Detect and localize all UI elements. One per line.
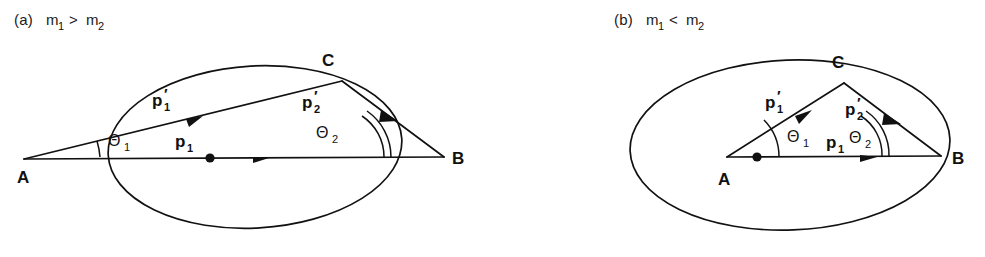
- vertex-label-a-C: C: [322, 51, 334, 70]
- center-of-mass-dot-a: [205, 153, 214, 162]
- panel-a-caption-mass-right-sub: 2: [98, 20, 104, 32]
- label-theta2-a: Θ 2: [316, 124, 338, 145]
- vertex-label-b-A: A: [718, 170, 730, 189]
- label-p1-prime-a-base: p: [152, 91, 162, 110]
- vector-p2-prime-arrowhead-b: [882, 113, 901, 125]
- panel-b-caption-mass-right-sub: 2: [698, 20, 704, 32]
- label-theta2-a-base: Θ: [316, 124, 328, 141]
- panel-b-caption-mass-right: m: [686, 11, 699, 28]
- center-of-mass-dot-b: [752, 152, 761, 161]
- angle-arc-theta2-inner-b: [861, 116, 882, 156]
- panel-b-caption-relation: <: [669, 11, 678, 28]
- panel-a-caption-mass-right: m: [86, 11, 99, 28]
- label-p1-a-base: p: [175, 132, 185, 151]
- label-theta1-b-sub: 1: [803, 137, 809, 149]
- label-theta1-b: Θ 1: [787, 128, 809, 149]
- panel-b-caption-mass-left: m: [646, 11, 659, 28]
- panel-b-caption-prefix: (b): [614, 11, 633, 28]
- vertex-label-a-B: B: [452, 149, 464, 168]
- angle-arc-theta1-a: [97, 141, 100, 157]
- label-p1-prime-b-mark: ′: [777, 87, 781, 104]
- label-theta2-a-sub: 2: [332, 133, 338, 145]
- label-p1-a-sub: 1: [187, 142, 193, 154]
- label-theta2-b: Θ 2: [849, 129, 871, 150]
- momentum-ellipse-a: [104, 58, 407, 236]
- label-p1-prime-a-sub: 1: [164, 101, 170, 113]
- label-p2-prime-a-sub: 2: [314, 103, 320, 115]
- panel-a-caption-prefix: (a): [14, 11, 33, 28]
- label-p1-prime-a-mark: ′: [164, 85, 168, 102]
- panel-a: (a) m 1 > m 2 A B C p 1: [14, 11, 464, 236]
- label-p2-prime-b-base: p: [845, 100, 855, 119]
- panel-b-caption: (b) m 1 < m 2: [614, 11, 704, 32]
- label-p2-prime-b-mark: ′: [857, 94, 861, 111]
- label-p1-a: p 1: [175, 132, 193, 154]
- label-p2-prime-b-sub: 2: [857, 110, 863, 122]
- momentum-ellipse-figure: (a) m 1 > m 2 A B C p 1: [0, 0, 985, 257]
- panel-a-caption-mass-left-sub: 1: [58, 20, 64, 32]
- panel-a-caption: (a) m 1 > m 2: [14, 11, 104, 32]
- label-p2-prime-a-mark: ′: [314, 87, 318, 104]
- label-theta1-a: Θ 1: [108, 132, 130, 153]
- panel-a-caption-mass-left: m: [46, 11, 59, 28]
- label-p1-prime-b: p 1 ′: [765, 87, 783, 115]
- label-p1-b-base: p: [826, 133, 836, 152]
- panel-b: (b) m 1 < m 2 A B C p 1 ′: [614, 11, 964, 236]
- label-theta1-a-base: Θ: [108, 132, 120, 149]
- label-theta1-a-sub: 1: [124, 141, 130, 153]
- label-p2-prime-a-base: p: [302, 93, 312, 112]
- label-theta2-b-base: Θ: [849, 129, 861, 146]
- momentum-ellipse-b: [627, 54, 953, 236]
- vertex-label-a-A: A: [17, 168, 29, 187]
- label-p1-b-sub: 1: [838, 143, 844, 155]
- label-theta1-b-base: Θ: [787, 128, 799, 145]
- label-p1-b: p 1: [826, 133, 844, 155]
- label-p1-prime-b-base: p: [765, 93, 775, 112]
- angle-arc-theta2-inner-a: [362, 116, 384, 157]
- label-theta2-b-sub: 2: [865, 138, 871, 150]
- vector-p1-line-a: [24, 157, 444, 159]
- panel-b-caption-mass-left-sub: 1: [658, 20, 664, 32]
- vector-p1-prime-arrowhead-a: [186, 116, 203, 127]
- panel-a-caption-relation: >: [69, 11, 78, 28]
- vector-p1-arrowhead-a: [253, 157, 269, 163]
- vertex-label-b-C: C: [832, 53, 844, 72]
- vertex-label-b-B: B: [952, 149, 964, 168]
- label-p2-prime-b: p 2 ′: [845, 94, 863, 122]
- label-p1-prime-b-sub: 1: [777, 103, 783, 115]
- label-p2-prime-a: p 2 ′: [302, 87, 320, 115]
